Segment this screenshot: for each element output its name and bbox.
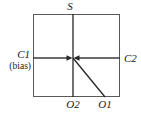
- label-c1: C1: [17, 49, 30, 60]
- label-bias: (bias): [9, 62, 31, 72]
- label-s: S: [67, 1, 73, 12]
- label-o1: O1: [98, 99, 111, 110]
- label-o2: O2: [66, 99, 79, 110]
- label-c2: C2: [124, 53, 137, 64]
- diagram-canvas: S C1 (bias) C2 O2 O1: [0, 0, 141, 113]
- o1-diagonal-line: [73, 58, 105, 97]
- boundary-box: [34, 15, 120, 97]
- c1-arrowhead-icon: [67, 55, 73, 60]
